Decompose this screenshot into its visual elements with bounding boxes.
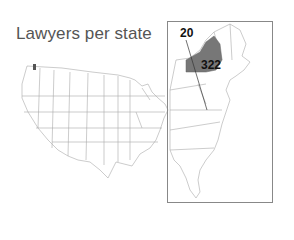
dc-value-label: 20 [180,26,193,40]
ny-value-label: 322 [201,58,221,72]
shaded-marker-west [33,64,36,70]
us-outline [22,66,168,178]
inset-frame [167,21,273,203]
